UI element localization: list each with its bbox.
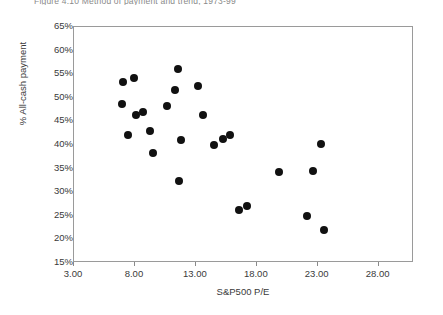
x-axis-title: S&P500 P/E xyxy=(73,286,413,297)
x-tick-mark xyxy=(134,262,135,266)
x-tick-label: 8.00 xyxy=(109,269,159,279)
y-axis-title: % All-cash payment xyxy=(17,24,28,144)
x-tick-label: 23.00 xyxy=(292,269,342,279)
x-tick-mark xyxy=(378,262,379,266)
x-tick-label: 18.00 xyxy=(231,269,281,279)
x-tick-label: 3.00 xyxy=(48,269,98,279)
x-tick-mark xyxy=(256,262,257,266)
x-tick-label: 28.00 xyxy=(353,269,403,279)
x-tick-mark xyxy=(317,262,318,266)
x-tick-label: 13.00 xyxy=(170,269,220,279)
x-axis-ticks: 3.008.0013.0018.0023.0028.00 xyxy=(0,0,443,315)
x-tick-mark xyxy=(73,262,74,266)
x-tick-mark xyxy=(195,262,196,266)
